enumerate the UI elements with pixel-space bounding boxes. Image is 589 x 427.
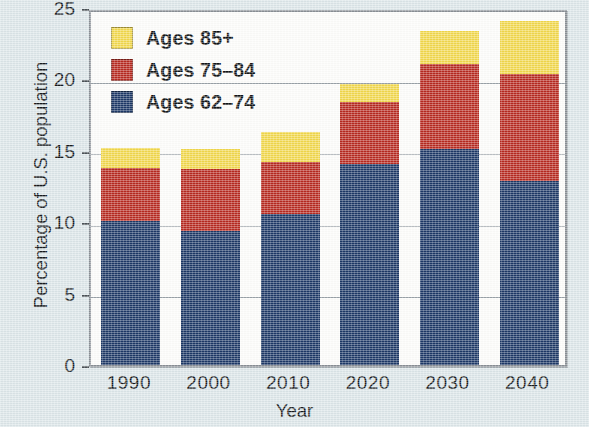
gridline [91, 297, 565, 298]
bar-segment [181, 149, 240, 169]
bar-segment [101, 168, 160, 221]
bar-segment [500, 21, 559, 74]
x-tick-label: 2040 [477, 372, 577, 394]
y-tick-mark [82, 366, 89, 368]
bar-segment [181, 231, 240, 365]
bar-segment [340, 84, 399, 103]
bar-segment [500, 181, 559, 365]
bar-stack [340, 8, 399, 365]
y-tick-mark [82, 9, 89, 11]
bar-segment [101, 221, 160, 365]
legend-item: Ages 62–74 [111, 86, 255, 118]
legend-swatch-ages-62-74 [111, 91, 133, 113]
y-tick-label: 10 [31, 212, 75, 234]
y-tick-label: 15 [31, 141, 75, 163]
legend-item-label: Ages 75–84 [146, 59, 255, 82]
y-tick-mark [82, 295, 89, 297]
bar-segment [261, 214, 320, 365]
y-tick-label: 5 [31, 284, 75, 306]
legend-item-label: Ages 85+ [146, 27, 234, 50]
legend-item-label: Ages 62–74 [146, 91, 255, 114]
legend-swatch-ages-75-84 [111, 59, 133, 81]
y-tick-label: 20 [31, 69, 75, 91]
bar-segment [420, 31, 479, 64]
bar-segment [340, 164, 399, 365]
bar-stack [500, 8, 559, 365]
bar-segment [420, 149, 479, 365]
y-tick-label: 0 [31, 355, 75, 377]
bar-stack [261, 8, 320, 365]
legend: Ages 85+Ages 75–84Ages 62–74 [111, 22, 255, 118]
bar-stack [420, 8, 479, 365]
bar-segment [261, 162, 320, 213]
y-tick-mark [82, 152, 89, 154]
gridline [91, 226, 565, 227]
x-axis-title: Year [0, 400, 589, 422]
bar-segment [181, 169, 240, 230]
y-tick-mark [82, 80, 89, 82]
gridline [91, 154, 565, 155]
bar-segment [420, 64, 479, 150]
legend-swatch-ages-85-plus [111, 27, 133, 49]
bar-segment [500, 74, 559, 181]
bar-segment [340, 102, 399, 163]
y-axis-title: Percentage of U.S. population [30, 5, 52, 365]
stacked-bar-chart: Percentage of U.S. population 0510152025… [0, 0, 589, 427]
bar-segment [101, 148, 160, 168]
legend-item: Ages 75–84 [111, 54, 255, 86]
legend-item: Ages 85+ [111, 22, 255, 54]
bar-segment [261, 132, 320, 162]
y-tick-label: 25 [31, 0, 75, 20]
y-tick-mark [82, 223, 89, 225]
